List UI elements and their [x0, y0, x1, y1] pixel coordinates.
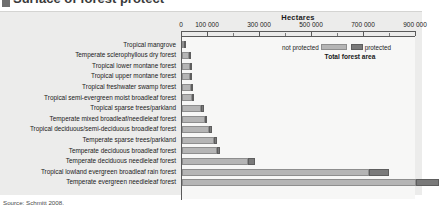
x-minor-tick-400000: [285, 33, 286, 36]
x-tick-500000: [311, 31, 312, 36]
bar-segment-protected: [190, 63, 192, 70]
bar-segment-not-protected: [182, 126, 209, 133]
y-axis-label: Tropical freshwater swamp forest: [0, 82, 176, 93]
bar: [182, 84, 193, 91]
source-note: Source: Schmitt 2008.: [3, 199, 64, 206]
bar: [182, 105, 204, 112]
chart-panel: Hectares 0100 000300 000500 000700 00090…: [0, 11, 422, 195]
bar-segment-not-protected: [182, 63, 190, 70]
bar-segment-not-protected: [182, 137, 214, 144]
bar-segment-not-protected: [182, 147, 217, 154]
bar-segment-not-protected: [182, 94, 192, 101]
bar: [182, 63, 192, 70]
bar-segment-not-protected: [182, 73, 190, 80]
x-minor-tick-800000: [389, 33, 390, 36]
bar: [182, 179, 439, 186]
bar-segment-not-protected: [182, 116, 205, 123]
bar-segment-protected: [214, 137, 217, 144]
y-axis-label: Temperate evergreen needleleaf forest: [0, 177, 176, 188]
legend-protected-label: protected: [365, 44, 391, 51]
bar-segment-protected: [190, 73, 192, 80]
bar-segment-protected: [209, 126, 212, 133]
bar-segment-not-protected: [182, 52, 189, 59]
x-axis-line: [181, 36, 415, 37]
bar: [182, 158, 255, 165]
bar-segment-protected: [191, 84, 193, 91]
bar: [182, 73, 192, 80]
legend-protected-swatch: [351, 44, 363, 50]
bar: [182, 126, 212, 133]
y-axis-label: Tropical lowland evergreen broadleaf rai…: [0, 167, 176, 178]
y-axis-label: Tropical upper montane forest: [0, 71, 176, 82]
x-tick-300000: [259, 31, 260, 36]
chart-legend: not protected protected: [282, 43, 418, 51]
bar-segment-protected: [192, 94, 194, 101]
y-axis-label: Temperate deciduous needleleaf forest: [0, 156, 176, 167]
bar: [182, 137, 217, 144]
x-tick-label-0: 0: [179, 21, 183, 28]
legend-not-protected-label: not protected: [282, 44, 319, 51]
x-tick-label-700000: 700 000: [351, 21, 375, 28]
x-tick-label-300000: 300 000: [247, 21, 271, 28]
x-tick-700000: [363, 31, 364, 36]
bar: [182, 147, 220, 154]
clipped-heading-text: Surface of forest protect: [13, 0, 164, 6]
bar: [182, 52, 191, 59]
y-axis-label: Tropical lower montane forest: [0, 61, 176, 72]
bar: [182, 116, 207, 123]
bar-segment-protected: [205, 116, 208, 123]
x-tick-label-500000: 500 000: [299, 21, 323, 28]
y-axis-label: Temperate deciduous broadleaf forest: [0, 146, 176, 157]
y-axis-label: Tropical deciduous/semi-deciduous broadl…: [0, 124, 176, 135]
bar-segment-not-protected: [182, 105, 201, 112]
x-tick-900000: [415, 31, 416, 36]
y-axis-label: Temperate sparse trees/parkland: [0, 135, 176, 146]
bar: [182, 94, 194, 101]
legend-not-protected-swatch: [321, 44, 347, 50]
heading-marker-icon: [2, 0, 10, 7]
y-axis-label: Tropical sparse trees/parkland: [0, 103, 176, 114]
bar-segment-not-protected: [182, 84, 191, 91]
bar-segment-protected: [369, 169, 389, 176]
bar: [182, 169, 389, 176]
bar-segment-not-protected: [182, 169, 369, 176]
bar-segment-protected: [189, 52, 191, 59]
x-tick-0: [181, 31, 182, 36]
bar-segment-protected: [201, 105, 203, 112]
bar-segment-not-protected: [182, 158, 248, 165]
x-axis-top-line: [181, 31, 415, 32]
x-minor-tick-600000: [337, 33, 338, 36]
bar-segment-not-protected: [182, 179, 416, 186]
bar: [182, 41, 186, 48]
legend-title: Total forest area: [282, 53, 418, 60]
x-tick-label-100000: 100 000: [195, 21, 219, 28]
x-minor-tick-200000: [233, 33, 234, 36]
y-axis-label: Temperate mixed broadleaf/needleleaf for…: [0, 114, 176, 125]
bar-segment-protected: [184, 41, 186, 48]
x-tick-100000: [207, 31, 208, 36]
bar-segment-protected: [248, 158, 255, 165]
bar-segment-protected: [416, 179, 439, 186]
y-axis-label: Tropical mangrove: [0, 40, 176, 51]
x-tick-label-900000: 900 000: [403, 21, 427, 28]
clipped-heading-strip: Surface of forest protect: [0, 0, 422, 11]
bar-segment-protected: [217, 147, 221, 154]
y-axis-label: Temperate sclerophyllous dry forest: [0, 50, 176, 61]
y-axis-label: Tropical semi-evergreen moist broadleaf …: [0, 93, 176, 104]
